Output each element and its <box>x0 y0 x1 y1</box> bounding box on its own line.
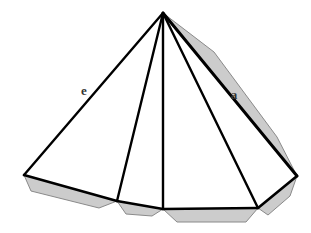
label-base-edge-a: a <box>231 87 238 102</box>
pyramid-diagram: e a <box>0 0 311 233</box>
base-edge-center-right <box>163 208 258 209</box>
figure-canvas: e a <box>0 0 311 233</box>
label-lateral-edge-e: e <box>81 83 87 98</box>
